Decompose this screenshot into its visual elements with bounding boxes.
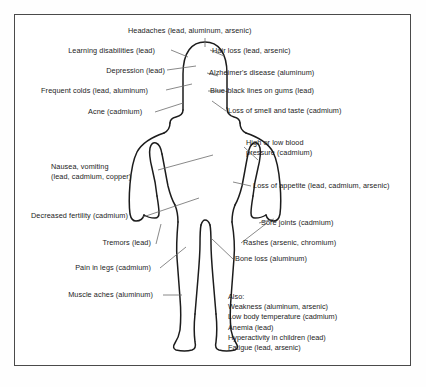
label-sore-joints: Sore joints (cadmium) (261, 218, 334, 228)
label-blood-pressure: High or low blood pressure (cadmium) (246, 138, 346, 157)
label-muscle-aches: Muscle aches (aluminum) (68, 290, 153, 300)
label-frequent-colds: Frequent colds (lead, aluminum) (41, 86, 148, 96)
label-nausea-vomiting: Nausea, vomiting (lead, cadmium, copper) (51, 162, 159, 181)
also-item-hyperactivity: Hyperactivity in children (lead) (228, 333, 337, 343)
also-list: Also: Weakness (aluminum, arsenic) Low b… (228, 292, 337, 353)
label-hair-loss: Hair loss (lead, arsenic) (212, 46, 290, 56)
also-item-fatigue: Fatigue (lead, arsenic) (228, 343, 337, 353)
also-item-anemia: Anemia (lead) (228, 323, 337, 333)
also-item-weakness: Weakness (aluminum, arsenic) (228, 302, 337, 312)
label-pain-in-legs: Pain in legs (cadmium) (75, 263, 151, 273)
also-heading: Also: (228, 292, 337, 302)
label-acne: Acne (cadmium) (88, 107, 142, 117)
label-nausea-line2: (lead, cadmium, copper) (51, 172, 159, 182)
label-nausea-line1: Nausea, vomiting (51, 162, 159, 172)
label-rashes: Rashes (arsenic, chromium) (243, 238, 336, 248)
label-bone-loss: Bone loss (aluminum) (235, 254, 307, 264)
label-tremors: Tremors (lead) (102, 238, 151, 248)
label-loss-of-appetite: Loss of appetite (lead, cadmium, arsenic… (253, 181, 389, 191)
diagram-page: Headaches (lead, aluminum, arsenic) Lear… (0, 0, 426, 387)
label-blood-pressure-line2: pressure (cadmium) (246, 148, 346, 158)
label-alzheimers: Alzheimer's disease (aluminum) (209, 68, 314, 78)
label-learning-disabilities: Learning disabilities (lead) (68, 46, 155, 56)
label-decreased-fertility: Decreased fertility (cadmium) (31, 211, 128, 221)
label-blue-black-lines-gums: Blue-black lines on gums (lead) (210, 86, 314, 96)
also-item-low-body-temperature: Low body temperature (cadmium) (228, 312, 337, 322)
label-headaches: Headaches (lead, aluminum, arsenic) (128, 26, 251, 36)
label-loss-smell-taste: Loss of smell and taste (cadmium) (228, 106, 342, 116)
label-blood-pressure-line1: High or low blood (246, 138, 346, 148)
label-depression: Depression (lead) (106, 66, 165, 76)
